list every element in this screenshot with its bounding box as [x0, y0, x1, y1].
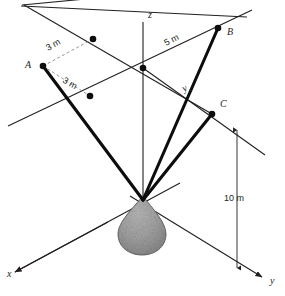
label-dim-yc-group: y c: [179, 80, 194, 96]
offset-node-upper-dot: [90, 36, 97, 43]
offset-node-lower-dot: [87, 93, 94, 100]
label-point-a: A: [24, 59, 32, 70]
point-b-dot: [215, 25, 222, 32]
roof-plane-rails: [21, 6, 247, 17]
x-axis-line-tail: [15, 222, 108, 272]
label-z-axis: z: [147, 9, 152, 20]
statics-diagram-figure: A B C z x y 3 m 3 m 5 m 10 m y c: [0, 0, 285, 296]
rail-upper: [22, 0, 244, 17]
label-dim-3m-upper: 3 m: [44, 37, 62, 53]
label-point-b: B: [227, 26, 233, 37]
label-y-axis: y: [269, 275, 275, 286]
point-a-dot: [40, 63, 47, 70]
diagram-canvas: A B C z x y 3 m 3 m 5 m 10 m y c: [0, 0, 285, 296]
suspended-mass-cone: [118, 196, 166, 255]
label-dim-10m: 10 m: [224, 193, 244, 203]
cable-to-c: [143, 114, 212, 200]
rail-upper-line: [21, 6, 247, 17]
label-dim-3m-lower: 3 m: [61, 75, 79, 91]
label-point-c: C: [220, 98, 227, 109]
rail-origin-to-right-edge: [143, 68, 265, 155]
origin-node-dot: [140, 65, 147, 72]
point-c-dot: [209, 111, 216, 118]
label-x-axis: x: [6, 268, 12, 279]
